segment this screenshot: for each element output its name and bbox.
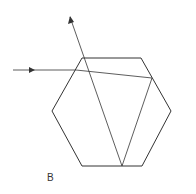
exit-ray [70,17,122,166]
hexagon-crystal [52,58,171,166]
incoming-arrow-icon [29,67,35,73]
diagram-label: B [47,172,54,183]
exit-arrow-icon [68,16,74,24]
refracted-ray [76,70,152,78]
reflected-ray [122,78,152,166]
diagram-canvas [0,0,196,194]
